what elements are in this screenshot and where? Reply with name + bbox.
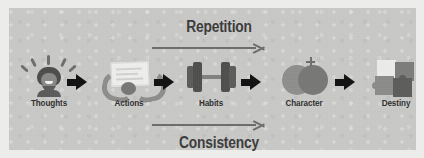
node-label-character: Character xyxy=(270,98,338,108)
arrow-tip xyxy=(163,74,174,90)
arrow-head xyxy=(253,118,266,132)
arrow-tip xyxy=(344,74,355,90)
chain-node-habits: Habits xyxy=(179,56,243,114)
arrow-tip xyxy=(76,74,87,90)
paper-line xyxy=(116,68,142,71)
idea-ray xyxy=(47,55,50,65)
node-label-destiny: Destiny xyxy=(362,98,424,108)
consistency-flow-arrow-icon xyxy=(152,118,266,132)
dumbbell-icon xyxy=(179,56,243,96)
puzzle-piece xyxy=(375,76,394,95)
arrow-shaft xyxy=(152,47,256,49)
jigsaw-puzzle-icon xyxy=(364,56,424,96)
step-arrow-icon-3 xyxy=(241,74,261,91)
hand-holding-pen-shape xyxy=(121,82,136,95)
arrow-tip xyxy=(250,74,261,90)
consistency-label: Consistency xyxy=(150,134,288,152)
circle-shape-right xyxy=(298,65,328,95)
infographic-panel: Repetition Thoughts xyxy=(9,8,416,150)
chain-node-character: Character xyxy=(272,56,336,114)
puzzle-piece xyxy=(393,78,412,97)
shoulder-shape xyxy=(37,90,61,97)
arrow-shaft xyxy=(152,124,256,126)
puzzle-knob xyxy=(372,82,379,89)
chain-node-actions: Actions xyxy=(97,56,161,114)
node-label-habits: Habits xyxy=(177,98,245,108)
dumbbell-plate xyxy=(193,62,202,92)
dumbbell-plate xyxy=(229,66,236,88)
step-arrow-icon-4 xyxy=(335,74,355,91)
node-label-actions: Actions xyxy=(95,98,163,108)
infographic-root: Repetition Thoughts xyxy=(0,0,424,158)
idea-ray xyxy=(60,58,67,67)
repetition-flow-arrow-icon xyxy=(152,41,266,55)
overlapping-circles-icon xyxy=(272,56,336,96)
plus-icon xyxy=(306,57,315,66)
idea-ray xyxy=(68,64,77,72)
hands-writing-paper-icon xyxy=(97,56,161,96)
node-label-thoughts: Thoughts xyxy=(15,98,83,108)
arrow-head xyxy=(253,41,266,55)
idea-ray xyxy=(30,58,37,67)
chain-node-destiny: Destiny xyxy=(364,56,424,114)
step-arrow-icon-2 xyxy=(154,74,174,91)
idea-ray xyxy=(20,64,29,72)
step-arrow-icon-1 xyxy=(67,74,87,91)
repetition-label: Repetition xyxy=(150,18,288,36)
paper-line xyxy=(116,73,138,76)
puzzle-knob xyxy=(399,75,406,82)
paper-line xyxy=(116,78,143,81)
